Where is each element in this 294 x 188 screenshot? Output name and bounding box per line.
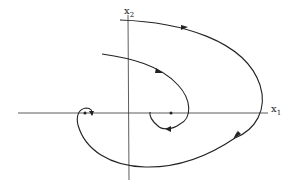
left-equilibrium-point — [84, 112, 87, 115]
arrow-inner-bottom — [165, 126, 171, 132]
outer-trajectory — [77, 20, 262, 167]
x2-axis-label: x2 — [124, 6, 134, 19]
inner-trajectory — [102, 54, 189, 129]
x2-axis — [128, 15, 129, 180]
right-equilibrium-point — [170, 112, 173, 115]
x1-label-subscript: 1 — [277, 109, 281, 117]
x2-label-subscript: 2 — [130, 11, 134, 19]
x1-axis-label: x1 — [271, 104, 281, 117]
arrow-inner-top — [155, 68, 163, 73]
arrow-left-spiral — [89, 111, 94, 116]
phase-portrait — [0, 0, 294, 188]
